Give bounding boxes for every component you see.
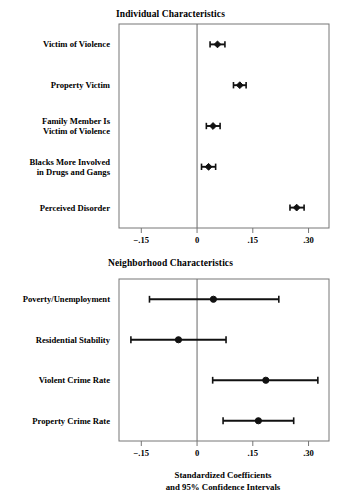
row-label: Property Victim (51, 80, 111, 90)
row-label: Violent Crime Rate (39, 375, 110, 385)
row-label: Poverty/Unemployment (23, 294, 110, 304)
plot-frame (119, 24, 329, 228)
panel-individual-characteristics: Individual Characteristics −.150.15.30Vi… (0, 0, 341, 250)
row-label: Victim of Violence (43, 39, 110, 49)
forest-plot-figure: Individual Characteristics −.150.15.30Vi… (0, 0, 341, 503)
x-axis-tick-label: −.15 (133, 448, 149, 458)
row-label: Victim of Violence (43, 126, 110, 136)
estimate-marker (175, 337, 181, 343)
plot-area-individual: −.150.15.30Victim of ViolenceProperty Vi… (0, 0, 341, 250)
plot-frame (119, 279, 329, 441)
axis-caption: Standardized Coefficients and 95% Confid… (105, 470, 341, 493)
x-axis-tick-label: 0 (195, 448, 199, 458)
estimate-marker (236, 82, 243, 89)
estimate-marker (293, 204, 300, 211)
estimate-marker (210, 296, 216, 302)
row-label: Perceived Disorder (40, 203, 110, 213)
x-axis-tick-label: .15 (247, 235, 258, 245)
x-axis-tick-label: .15 (247, 448, 258, 458)
estimate-marker (263, 377, 269, 383)
axis-caption-line-2: and 95% Confidence Intervals (105, 482, 341, 494)
x-axis-tick-label: .30 (303, 448, 314, 458)
plot-area-neighborhood: −.150.15.30Poverty/UnemploymentResidenti… (0, 253, 341, 503)
row-label: Residential Stability (36, 335, 111, 345)
estimate-marker (205, 163, 212, 170)
row-label: in Drugs and Gangs (37, 167, 111, 177)
estimate-marker (255, 418, 261, 424)
row-label: Family Member Is (42, 116, 111, 126)
x-axis-tick-label: 0 (195, 235, 199, 245)
estimate-marker (214, 41, 221, 48)
row-label: Property Crime Rate (32, 416, 110, 426)
axis-caption-line-1: Standardized Coefficients (105, 470, 341, 482)
x-axis-tick-label: −.15 (133, 235, 149, 245)
estimate-marker (210, 123, 217, 130)
panel-neighborhood-characteristics: Neighborhood Characteristics −.150.15.30… (0, 253, 341, 503)
x-axis-tick-label: .30 (303, 235, 314, 245)
row-label: Blacks More Involved (29, 157, 110, 167)
